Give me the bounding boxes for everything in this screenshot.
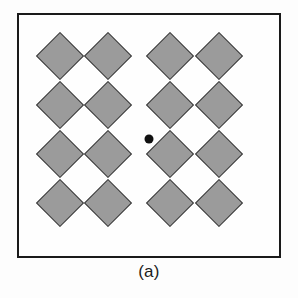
lattice-diamond [146,81,194,129]
lattice-diamond [84,179,132,227]
lattice-diamond [84,130,132,178]
lattice-diamond [195,179,243,227]
lattice-diamond [195,32,243,80]
lattice-diamond [146,179,194,227]
center-dot-marker [145,135,154,144]
lattice-diamond [36,130,84,178]
lattice-diamond [36,81,84,129]
figure-panel: (a) [0,0,298,298]
figure-frame [17,13,281,258]
panel-caption: (a) [0,262,298,282]
lattice-diamond [84,32,132,80]
lattice-diamond [146,32,194,80]
lattice-diamond [195,130,243,178]
lattice-diamond [195,81,243,129]
lattice-diamond [36,179,84,227]
lattice-diamond [36,32,84,80]
lattice-diamond [84,81,132,129]
